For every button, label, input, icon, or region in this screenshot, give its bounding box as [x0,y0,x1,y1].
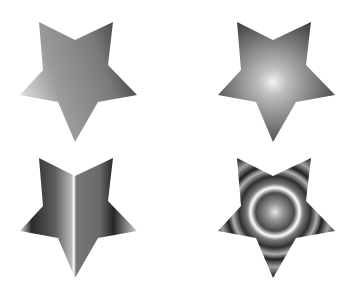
star-shape [218,158,335,278]
star-radial-gradient [218,22,335,142]
star-ring-gradient [218,158,335,278]
star-shape [20,158,137,278]
star-shape [20,22,137,142]
star-shape [218,22,335,142]
gradient-stars-canvas [0,0,357,293]
star-linear-gradient [20,22,137,142]
star-metallic-gradient [20,158,137,278]
